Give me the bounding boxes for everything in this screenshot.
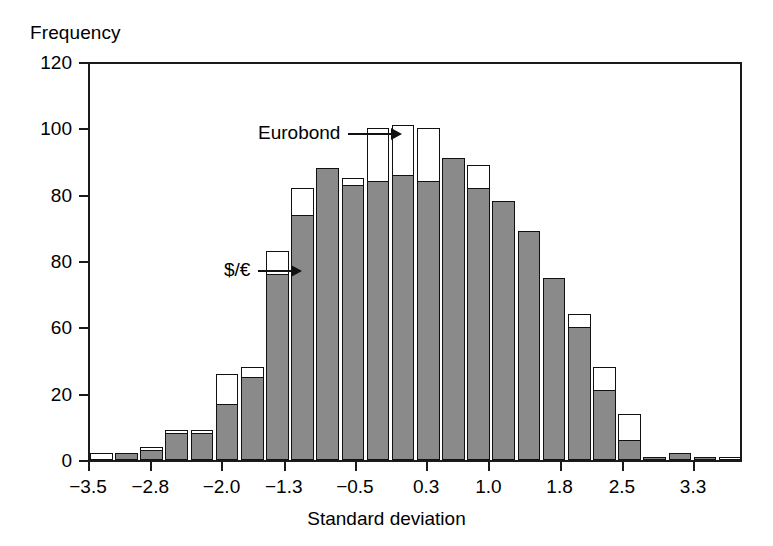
bar-usd-eur [140,450,163,460]
x-tick-mark [284,462,286,471]
bar-usd-eur [618,440,641,460]
histogram-bin [367,60,390,460]
x-tick-mark [355,462,357,471]
histogram-bin [442,60,465,460]
bar-usd-eur [191,433,214,460]
histogram-bin [643,60,666,460]
bar-usd-eur [316,168,339,460]
x-tick-mark [560,462,562,471]
histogram-bin [342,60,365,460]
histogram-bin [492,60,515,460]
y-tick-mark [79,327,88,329]
histogram-bin [669,60,692,460]
chart-figure: Frequency 020608080100120 −3.5−2.8−2.0−1… [0,0,773,546]
histogram-bin [467,60,490,460]
bar-usd-eur [669,453,692,460]
histogram-bin [392,60,415,460]
histogram-bin [618,60,641,460]
histogram-bars [88,62,742,462]
x-tick-label: 1.0 [453,476,523,498]
x-tick-label: −1.3 [249,476,319,498]
x-tick-label: 3.3 [658,476,728,498]
bar-usd-eur [467,188,490,460]
histogram-bin [417,60,440,460]
x-tick-label: 2.5 [587,476,657,498]
bar-usd-eur [367,181,390,460]
histogram-bin [291,60,314,460]
bar-usd-eur [417,181,440,460]
y-tick-mark [79,195,88,197]
x-axis-title: Standard deviation [0,508,773,530]
histogram-bin [115,60,138,460]
bar-usd-eur [518,231,541,460]
x-tick-label: 0.3 [391,476,461,498]
bar-usd-eur [543,278,566,460]
histogram-bin [568,60,591,460]
plot-area: 020608080100120 −3.5−2.8−2.0−1.3−0.50.31… [88,62,742,462]
histogram-bin [518,60,541,460]
bar-usd-eur [241,377,264,460]
y-tick-label: 20 [2,385,72,404]
bar-usd-eur [342,185,365,460]
histogram-bin [165,60,188,460]
histogram-bin [543,60,566,460]
bar-usd-eur [392,175,415,460]
y-axis-title: Frequency [30,22,121,44]
x-tick-label: −0.5 [320,476,390,498]
bar-usd-eur [291,215,314,460]
x-tick-mark [426,462,428,471]
x-tick-mark [693,462,695,471]
bar-usd-eur [643,457,666,460]
histogram-bin [694,60,717,460]
y-tick-label: 120 [2,53,72,72]
x-tick-label: −3.5 [53,476,123,498]
histogram-bin [266,60,289,460]
histogram-bin [191,60,214,460]
x-tick-mark [150,462,152,471]
histogram-bin [593,60,616,460]
y-tick-label: 80 [2,252,72,271]
bar-usd-eur [115,453,138,460]
histogram-bin [90,60,113,460]
bar-usd-eur [568,327,591,460]
y-tick-mark [79,261,88,263]
histogram-bin [316,60,339,460]
histogram-bin [719,60,742,460]
annotation-arrow-line [258,270,291,272]
x-tick-label: 1.8 [525,476,595,498]
y-tick-label: 60 [2,318,72,337]
annotation-arrow-line [348,133,391,135]
x-tick-label: −2.8 [115,476,185,498]
y-tick-mark [79,460,88,462]
x-tick-mark [622,462,624,471]
y-tick-mark [79,62,88,64]
y-tick-mark [79,128,88,130]
y-tick-label: 100 [2,119,72,138]
bar-usd-eur [442,158,465,460]
bar-usd-eur [216,404,239,460]
annotation-label: $/€ [224,259,250,281]
annotation-arrow-head [391,128,402,140]
annotation-arrow-head [291,265,302,277]
bar-usd-eur [165,433,188,460]
bar-usd-eur [593,390,616,460]
bar-eurobond [90,453,113,460]
y-tick-mark [79,394,88,396]
bar-eurobond [719,457,742,460]
bar-usd-eur [694,457,717,460]
x-tick-mark [221,462,223,471]
y-tick-label: 0 [2,451,72,470]
y-tick-label: 80 [2,186,72,205]
bar-usd-eur [492,201,515,460]
x-tick-mark [488,462,490,471]
histogram-bin [140,60,163,460]
x-tick-mark [88,462,90,471]
x-tick-label: −2.0 [186,476,256,498]
bar-usd-eur [266,274,289,460]
annotation-label: Eurobond [258,122,340,144]
